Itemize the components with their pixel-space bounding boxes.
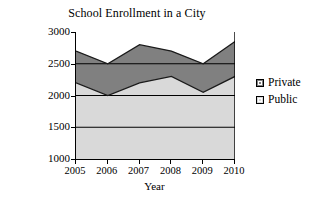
legend-item-private[interactable]: Private: [256, 74, 301, 91]
chart-container: School Enrollment in a City Number of St…: [0, 0, 328, 213]
legend-label-public: Public: [268, 91, 297, 108]
plot-clip: [76, 32, 235, 159]
y-tick-label: 3000: [36, 25, 70, 37]
x-tick-label: 2007: [122, 165, 156, 176]
chart-legend: Private Public: [256, 74, 301, 108]
y-tick-label: 2000: [36, 89, 70, 101]
y-tick-label: 1500: [36, 120, 70, 132]
x-tick-label: 2006: [90, 165, 124, 176]
x-tick-mark: [107, 159, 108, 164]
x-tick-label: 2009: [185, 165, 219, 176]
x-tick-label: 2008: [153, 165, 187, 176]
y-tick-label: 1000: [36, 152, 70, 164]
x-tick-mark: [139, 159, 140, 164]
x-axis-title: Year: [75, 180, 234, 192]
legend-label-private: Private: [268, 74, 301, 91]
x-tick-label: 2010: [217, 165, 251, 176]
legend-swatch-private: [256, 79, 264, 87]
x-tick-mark: [170, 159, 171, 164]
x-tick-mark: [234, 159, 235, 164]
plot-area: [75, 32, 235, 160]
x-tick-mark: [202, 159, 203, 164]
y-tick-label: 2500: [36, 57, 70, 69]
legend-swatch-public: [256, 96, 264, 104]
x-tick-mark: [75, 159, 76, 164]
x-tick-label: 2005: [58, 165, 92, 176]
legend-item-public[interactable]: Public: [256, 91, 301, 108]
area-chart-svg: [76, 32, 235, 159]
chart-title: School Enrollment in a City: [0, 6, 328, 21]
